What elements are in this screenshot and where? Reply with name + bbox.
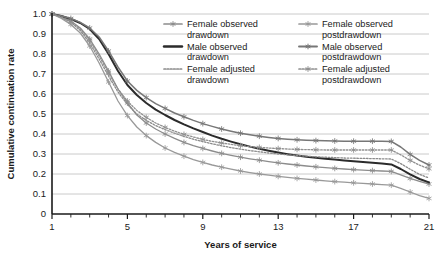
legend-label-line1: Male observed [187,42,247,52]
y-tick-label: 0.5 [33,108,46,119]
y-axis-ticks: 00.10.20.30.40.50.60.70.80.91.0 [33,8,46,219]
legend-label-line2: drawdown [187,75,229,85]
y-tick-label: 0.7 [33,68,46,79]
x-axis-title: Years of service [204,239,276,250]
y-tick-label: 0.4 [33,128,46,139]
y-tick-label: 0 [41,208,46,219]
legend-label-line2: postdrawdown [322,30,381,40]
legend-label-line2: drawdown [187,30,229,40]
y-tick-label: 0.6 [33,88,46,99]
y-tick-label: 0.9 [33,28,46,39]
legend-label-line1: Female adjusted [187,64,255,74]
legend-label-line2: drawdown [187,52,229,62]
continuation-rate-line-chart: 00.10.20.30.40.50.60.70.80.91.0159131721… [0,0,437,254]
legend-label-line1: Female adjusted [322,64,390,74]
legend-label-line2: postdrawdown [322,52,381,62]
legend-label-line1: Male observed [322,42,382,52]
x-axis-ticks: 159131721 [49,214,434,232]
chart-container: 00.10.20.30.40.50.60.70.80.91.0159131721… [0,0,437,254]
y-axis-title: Cumulative continuation rate [5,49,16,180]
y-tick-label: 1.0 [33,8,46,19]
x-tick-label: 1 [49,221,54,232]
y-tick-label: 0.2 [33,168,46,179]
x-tick-label: 17 [348,221,359,232]
legend-label-line1: Female observed [187,19,258,29]
x-tick-label: 9 [200,221,205,232]
y-tick-label: 0.3 [33,148,46,159]
legend-label-line2: postdrawdown [322,75,381,85]
legend-label-line1: Female observed [322,19,393,29]
y-tick-label: 0.1 [33,188,46,199]
x-tick-label: 13 [273,221,284,232]
x-tick-label: 21 [424,221,435,232]
x-tick-label: 5 [125,221,130,232]
y-tick-label: 0.8 [33,48,46,59]
